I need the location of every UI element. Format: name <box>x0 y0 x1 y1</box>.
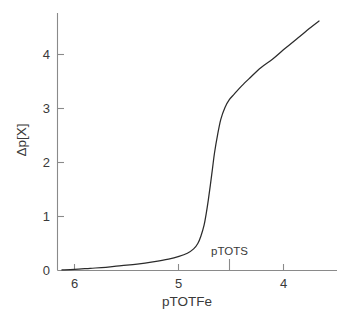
ptots-annotation-label: pTOTS <box>211 245 248 257</box>
y-axis-title: Δp[X] <box>14 123 29 156</box>
y-tick-label-2: 2 <box>43 155 50 170</box>
y-tick-label-3: 3 <box>43 101 50 116</box>
titration-curve <box>62 21 319 270</box>
y-tick-label-4: 4 <box>43 47 50 62</box>
y-axis-ticks <box>58 55 65 217</box>
chart-figure: 4 3 2 1 0 6 5 4 pTOTS pTOTFe Δp[X] <box>0 0 358 319</box>
x-axis-title: pTOTFe <box>162 294 212 309</box>
x-tick-label-5: 5 <box>175 276 182 291</box>
plot-area: 4 3 2 1 0 6 5 4 pTOTS pTOTFe Δp[X] <box>0 0 358 319</box>
y-tick-label-0: 0 <box>43 263 50 278</box>
y-tick-label-1: 1 <box>43 209 50 224</box>
x-tick-label-6: 6 <box>71 276 78 291</box>
x-tick-label-4: 4 <box>280 276 287 291</box>
